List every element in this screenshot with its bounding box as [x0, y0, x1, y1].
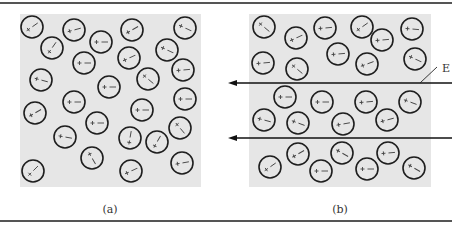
minus-sign	[366, 101, 372, 102]
minus-sign	[183, 69, 189, 70]
polar-molecule-diagram: (a) (b) E	[0, 0, 468, 227]
panel-b-label: (b)	[332, 203, 348, 216]
panel-b-background	[249, 14, 431, 187]
arrowhead-left-icon	[228, 80, 237, 86]
arrowhead-left-icon	[228, 135, 237, 141]
minus-sign	[388, 152, 394, 153]
minus-sign	[263, 62, 269, 63]
minus-sign	[325, 27, 331, 28]
minus-sign	[412, 29, 418, 30]
panel-a-no-field	[20, 14, 201, 187]
minus-sign	[382, 39, 388, 40]
panel-b-with-field	[249, 14, 431, 187]
panel-a-label: (a)	[102, 203, 117, 216]
minus-sign	[338, 53, 344, 54]
field-label-e: E	[442, 62, 450, 75]
